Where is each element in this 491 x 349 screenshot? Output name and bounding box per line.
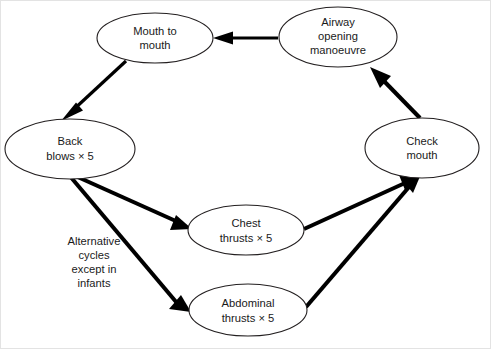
node-back-blows-label-line2: blows × 5: [46, 150, 94, 162]
edge-airway-to-mouth: [213, 32, 278, 45]
node-chest-thrusts-shape[interactable]: [188, 205, 304, 255]
edge-airway-to-mouth-arrowhead: [213, 32, 233, 45]
diagram-canvas: Mouth to mouth Airway opening manoeuvre …: [0, 0, 491, 349]
edge-chest-to-check-mouth: [304, 175, 419, 229]
node-abdominal-thrusts-shape[interactable]: [189, 284, 307, 336]
alternative-cycles-note: Alternative cycles except in infants: [68, 235, 121, 289]
choking-cycle-flowchart: Mouth to mouth Airway opening manoeuvre …: [1, 1, 491, 349]
node-airway-opening-manoeuvre-label-line1: Airway: [321, 16, 355, 28]
node-abdominal-thrusts[interactable]: Abdominal thrusts × 5: [189, 284, 307, 336]
alternative-cycles-note-line4: infants: [78, 277, 111, 289]
node-back-blows-label-line1: Back: [58, 135, 83, 147]
node-airway-opening-manoeuvre[interactable]: Airway opening manoeuvre: [279, 7, 397, 67]
node-check-mouth[interactable]: Check mouth: [365, 118, 479, 178]
node-chest-thrusts-label-line1: Chest: [231, 217, 261, 229]
node-mouth-to-mouth[interactable]: Mouth to mouth: [97, 13, 213, 63]
edge-abdominal-to-check-mouth: [306, 174, 421, 307]
node-check-mouth-label-line1: Check: [406, 135, 438, 147]
node-airway-opening-manoeuvre-label-line3: manoeuvre: [310, 44, 366, 56]
node-check-mouth-label-line2: mouth: [406, 149, 437, 161]
node-abdominal-thrusts-label-line1: Abdominal: [222, 297, 275, 309]
node-chest-thrusts-label-line2: thrusts × 5: [220, 232, 273, 244]
alternative-cycles-note-line1: Alternative: [68, 235, 121, 247]
node-mouth-to-mouth-label-line2: mouth: [139, 39, 170, 51]
node-chest-thrusts[interactable]: Chest thrusts × 5: [188, 205, 304, 255]
node-mouth-to-mouth-label-line1: Mouth to: [133, 25, 177, 37]
alternative-cycles-note-line2: cycles: [78, 249, 109, 261]
node-abdominal-thrusts-label-line2: thrusts × 5: [222, 312, 275, 324]
edge-check-mouth-to-airway: [370, 67, 420, 118]
edge-mouth-to-back-blows: [61, 61, 126, 121]
edge-check-mouth-to-airway-line: [381, 78, 420, 118]
node-airway-opening-manoeuvre-label-line2: opening: [318, 30, 358, 42]
edge-chest-to-check-mouth-line: [304, 183, 405, 229]
node-back-blows[interactable]: Back blows × 5: [5, 119, 135, 179]
alternative-cycles-note-line3: except in: [72, 263, 117, 275]
edge-mouth-to-back-blows-line: [72, 61, 126, 111]
